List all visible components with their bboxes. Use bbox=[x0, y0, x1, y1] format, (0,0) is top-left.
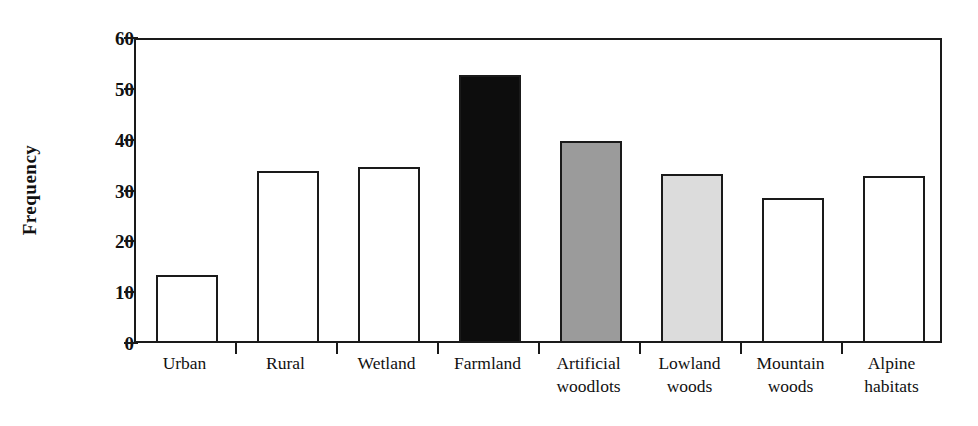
x-axis-label-urban: Urban bbox=[134, 352, 235, 375]
bar-lowland-woods bbox=[661, 174, 723, 341]
x-axis-label-line1: Rural bbox=[266, 353, 305, 373]
x-axis-label-line1: Mountain bbox=[756, 353, 824, 373]
x-axis-label-farmland: Farmland bbox=[437, 352, 538, 375]
x-axis-label-line2: habitats bbox=[841, 375, 942, 398]
x-axis-label-lowland-woods: Lowlandwoods bbox=[639, 352, 740, 398]
plot-area bbox=[134, 38, 942, 343]
x-axis-label-artificial-woodlots: Artificialwoodlots bbox=[538, 352, 639, 398]
bar-series bbox=[136, 40, 940, 341]
x-axis-label-line1: Alpine bbox=[868, 353, 916, 373]
x-axis-label-line1: Farmland bbox=[454, 353, 521, 373]
x-axis-label-line2: woodlots bbox=[538, 375, 639, 398]
y-axis: 0102030405060 bbox=[64, 0, 134, 426]
bar-artificial-woodlots bbox=[560, 141, 622, 341]
x-axis-label-mountain-woods: Mountainwoods bbox=[740, 352, 841, 398]
x-axis-label-line2: woods bbox=[740, 375, 841, 398]
y-axis-title: Frequency bbox=[0, 0, 60, 380]
bar-alpine-habitats bbox=[863, 176, 925, 341]
x-axis-label-line2: woods bbox=[639, 375, 740, 398]
x-axis-label-line1: Artificial bbox=[556, 353, 620, 373]
x-axis-label-alpine-habitats: Alpinehabitats bbox=[841, 352, 942, 398]
x-axis-labels: UrbanRuralWetlandFarmlandArtificialwoodl… bbox=[134, 352, 942, 422]
x-axis-label-line1: Lowland bbox=[658, 353, 720, 373]
bar-wetland bbox=[358, 167, 420, 341]
bar-chart-figure: Frequency 0102030405060 UrbanRuralWetlan… bbox=[0, 0, 978, 426]
x-axis-label-rural: Rural bbox=[235, 352, 336, 375]
x-axis-label-line1: Urban bbox=[163, 353, 207, 373]
x-axis-label-line1: Wetland bbox=[358, 353, 416, 373]
bar-urban bbox=[156, 275, 218, 341]
y-axis-title-text: Frequency bbox=[19, 145, 41, 236]
bar-farmland bbox=[459, 75, 521, 341]
bar-rural bbox=[257, 171, 319, 341]
x-axis-label-wetland: Wetland bbox=[336, 352, 437, 375]
bar-mountain-woods bbox=[762, 198, 824, 341]
